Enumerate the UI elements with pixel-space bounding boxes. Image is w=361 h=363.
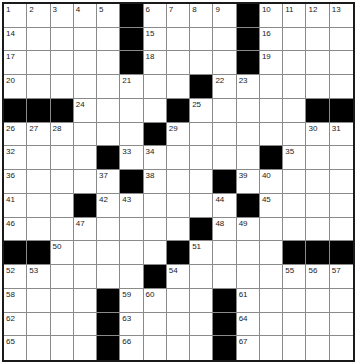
grid-cell[interactable] (213, 99, 236, 123)
grid-cell[interactable]: 8 (190, 4, 213, 28)
grid-cell[interactable] (74, 28, 97, 52)
grid-cell[interactable] (27, 146, 50, 170)
grid-cell[interactable]: 65 (4, 336, 27, 360)
grid-cell[interactable]: 37 (97, 170, 120, 194)
grid-cell[interactable] (190, 289, 213, 313)
grid-cell[interactable] (167, 75, 190, 99)
grid-cell[interactable]: 66 (120, 336, 143, 360)
grid-cell[interactable] (27, 51, 50, 75)
grid-cell[interactable]: 51 (190, 241, 213, 265)
grid-cell[interactable] (120, 265, 143, 289)
grid-cell[interactable] (167, 51, 190, 75)
grid-cell[interactable]: 23 (237, 75, 260, 99)
grid-cell[interactable]: 14 (4, 28, 27, 52)
grid-cell[interactable] (27, 170, 50, 194)
grid-cell[interactable] (120, 99, 143, 123)
grid-cell[interactable] (330, 28, 353, 52)
grid-cell[interactable]: 50 (51, 241, 74, 265)
grid-cell[interactable]: 12 (306, 4, 329, 28)
grid-cell[interactable]: 67 (237, 336, 260, 360)
grid-cell[interactable] (306, 194, 329, 218)
grid-cell[interactable] (306, 75, 329, 99)
grid-cell[interactable]: 54 (167, 265, 190, 289)
grid-cell[interactable] (306, 289, 329, 313)
grid-cell[interactable] (74, 51, 97, 75)
grid-cell[interactable] (97, 99, 120, 123)
grid-cell[interactable]: 22 (213, 75, 236, 99)
grid-cell[interactable] (283, 218, 306, 242)
grid-cell[interactable] (97, 75, 120, 99)
grid-cell[interactable]: 56 (306, 265, 329, 289)
grid-cell[interactable] (27, 218, 50, 242)
grid-cell[interactable]: 55 (283, 265, 306, 289)
grid-cell[interactable] (74, 241, 97, 265)
grid-cell[interactable] (283, 336, 306, 360)
grid-cell[interactable]: 27 (27, 123, 50, 147)
grid-cell[interactable] (237, 265, 260, 289)
grid-cell[interactable] (51, 146, 74, 170)
grid-cell[interactable]: 11 (283, 4, 306, 28)
grid-cell[interactable]: 59 (120, 289, 143, 313)
grid-cell[interactable] (27, 28, 50, 52)
grid-cell[interactable]: 35 (283, 146, 306, 170)
grid-cell[interactable]: 30 (306, 123, 329, 147)
grid-cell[interactable]: 31 (330, 123, 353, 147)
grid-cell[interactable] (144, 241, 167, 265)
grid-cell[interactable] (283, 289, 306, 313)
grid-cell[interactable] (260, 313, 283, 337)
grid-cell[interactable]: 61 (237, 289, 260, 313)
grid-cell[interactable] (144, 313, 167, 337)
grid-cell[interactable] (306, 336, 329, 360)
grid-cell[interactable] (74, 75, 97, 99)
grid-cell[interactable]: 45 (260, 194, 283, 218)
grid-cell[interactable] (74, 123, 97, 147)
grid-cell[interactable] (51, 218, 74, 242)
grid-cell[interactable] (167, 146, 190, 170)
grid-cell[interactable] (190, 170, 213, 194)
grid-cell[interactable] (51, 289, 74, 313)
grid-cell[interactable] (120, 218, 143, 242)
grid-cell[interactable]: 36 (4, 170, 27, 194)
grid-cell[interactable] (120, 123, 143, 147)
grid-cell[interactable] (74, 336, 97, 360)
grid-cell[interactable]: 28 (51, 123, 74, 147)
grid-cell[interactable]: 26 (4, 123, 27, 147)
grid-cell[interactable]: 13 (330, 4, 353, 28)
grid-cell[interactable]: 42 (97, 194, 120, 218)
grid-cell[interactable] (167, 170, 190, 194)
grid-cell[interactable] (51, 51, 74, 75)
grid-cell[interactable] (260, 218, 283, 242)
grid-cell[interactable] (283, 194, 306, 218)
grid-cell[interactable] (237, 123, 260, 147)
grid-cell[interactable] (260, 75, 283, 99)
grid-cell[interactable]: 25 (190, 99, 213, 123)
grid-cell[interactable] (51, 336, 74, 360)
grid-cell[interactable]: 17 (4, 51, 27, 75)
grid-cell[interactable] (330, 146, 353, 170)
grid-cell[interactable] (167, 218, 190, 242)
grid-cell[interactable] (306, 170, 329, 194)
grid-cell[interactable] (190, 123, 213, 147)
grid-cell[interactable] (237, 99, 260, 123)
grid-cell[interactable]: 18 (144, 51, 167, 75)
grid-cell[interactable] (144, 218, 167, 242)
grid-cell[interactable] (283, 28, 306, 52)
grid-cell[interactable] (283, 170, 306, 194)
grid-cell[interactable] (260, 99, 283, 123)
grid-cell[interactable] (74, 146, 97, 170)
grid-cell[interactable] (330, 289, 353, 313)
grid-cell[interactable]: 38 (144, 170, 167, 194)
grid-cell[interactable]: 53 (27, 265, 50, 289)
grid-cell[interactable] (74, 289, 97, 313)
grid-cell[interactable]: 21 (120, 75, 143, 99)
grid-cell[interactable]: 1 (4, 4, 27, 28)
grid-cell[interactable] (190, 51, 213, 75)
grid-cell[interactable] (27, 336, 50, 360)
grid-cell[interactable]: 58 (4, 289, 27, 313)
grid-cell[interactable]: 62 (4, 313, 27, 337)
grid-cell[interactable] (283, 99, 306, 123)
grid-cell[interactable]: 41 (4, 194, 27, 218)
grid-cell[interactable]: 10 (260, 4, 283, 28)
grid-cell[interactable] (213, 241, 236, 265)
grid-cell[interactable] (213, 28, 236, 52)
